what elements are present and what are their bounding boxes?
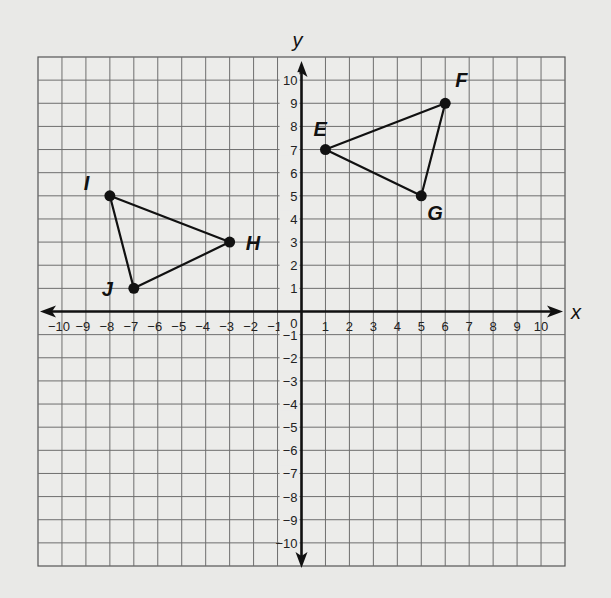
x-tick-label: 2: [346, 319, 353, 334]
point-f: [440, 98, 451, 109]
x-tick-label: −8: [99, 319, 114, 334]
y-tick-label: 7: [290, 143, 297, 158]
point-e: [320, 144, 331, 155]
y-tick-label: −7: [283, 466, 298, 481]
point-i: [104, 190, 115, 201]
x-tick-label: 4: [394, 319, 401, 334]
y-tick-label: 8: [290, 119, 297, 134]
point-label-f: F: [455, 69, 468, 91]
y-tick-label: −10: [275, 536, 297, 551]
x-tick-label: −6: [147, 319, 162, 334]
x-tick-label: −5: [171, 319, 186, 334]
x-tick-label: −9: [75, 319, 90, 334]
y-tick-label: 2: [290, 258, 297, 273]
y-tick-label: −9: [283, 513, 298, 528]
origin-label: 0: [290, 316, 297, 331]
y-tick-label: 6: [290, 166, 297, 181]
y-tick-label: 5: [290, 189, 297, 204]
x-tick-label: 10: [534, 319, 548, 334]
x-tick-label: −4: [195, 319, 210, 334]
x-tick-label: 8: [490, 319, 497, 334]
x-tick-label: −3: [219, 319, 234, 334]
y-tick-label: −8: [283, 490, 298, 505]
y-tick-label: −2: [283, 351, 298, 366]
y-tick-label: 1: [290, 281, 297, 296]
y-tick-label: 3: [290, 235, 297, 250]
point-h: [224, 237, 235, 248]
coordinate-plane: xy −10−9−8−7−6−5−4−3−2−11234567891010987…: [0, 0, 611, 598]
point-label-h: H: [246, 232, 261, 254]
x-tick-label: 6: [442, 319, 449, 334]
y-axis-label: y: [291, 29, 304, 51]
x-tick-label: −10: [48, 319, 70, 334]
point-label-j: J: [102, 278, 114, 300]
x-tick-label: 1: [322, 319, 329, 334]
y-tick-label: 10: [283, 73, 297, 88]
x-tick-label: 5: [418, 319, 425, 334]
point-label-i: I: [84, 172, 90, 194]
point-label-e: E: [313, 118, 327, 140]
x-tick-label: 7: [466, 319, 473, 334]
y-tick-label: −6: [283, 443, 298, 458]
y-tick-label: 9: [290, 96, 297, 111]
y-tick-label: −4: [283, 397, 298, 412]
y-tick-label: 4: [290, 212, 297, 227]
point-label-g: G: [427, 202, 443, 224]
x-tick-label: 9: [513, 319, 520, 334]
point-j: [128, 283, 139, 294]
y-tick-label: −3: [283, 374, 298, 389]
x-axis-label: x: [570, 301, 582, 323]
x-tick-label: −2: [243, 319, 258, 334]
x-tick-label: −7: [123, 319, 138, 334]
y-tick-label: −5: [283, 420, 298, 435]
point-g: [416, 190, 427, 201]
x-tick-label: 3: [370, 319, 377, 334]
